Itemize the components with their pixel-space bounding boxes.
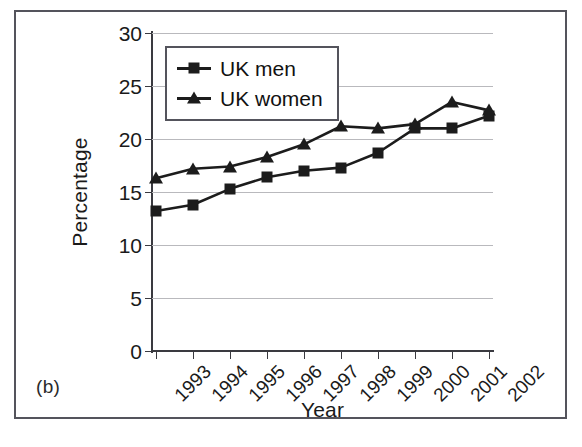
series-line-uk-men <box>156 116 489 211</box>
legend-key-triangle-icon <box>177 90 211 106</box>
data-point-uk-men-1995 <box>225 183 236 194</box>
y-tick-label: 0 <box>130 341 142 362</box>
y-tick-label: 10 <box>119 235 142 256</box>
x-tick-mark <box>489 351 490 359</box>
x-tick-mark <box>378 351 379 359</box>
legend-label-uk-men: UK men <box>220 58 296 79</box>
legend: UK men UK women <box>165 46 339 121</box>
data-point-uk-men-1997 <box>299 165 310 176</box>
y-tick-mark <box>145 192 152 193</box>
y-tick-label: 20 <box>119 129 142 150</box>
x-tick-mark <box>193 351 194 359</box>
x-tick-mark <box>415 351 416 359</box>
x-tick-mark <box>156 351 157 359</box>
x-tick-mark <box>230 351 231 359</box>
data-point-uk-women-1993 <box>149 172 163 184</box>
legend-item-uk-women: UK women <box>177 83 323 113</box>
legend-item-uk-men: UK men <box>177 53 323 83</box>
y-tick-mark <box>145 245 152 246</box>
y-tick-label: 5 <box>130 288 142 309</box>
x-tick-mark <box>267 351 268 359</box>
y-tick-mark <box>145 86 152 87</box>
plot-area: 051015202530 199319941995199619971998199… <box>152 33 493 351</box>
panel-letter: (b) <box>36 376 60 398</box>
y-tick-label: 30 <box>119 23 142 44</box>
data-point-uk-men-2001 <box>447 123 458 134</box>
y-tick-mark <box>145 298 152 299</box>
data-point-uk-men-1999 <box>373 147 384 158</box>
y-axis-title: Percentage <box>66 33 94 351</box>
y-tick-mark <box>145 33 152 34</box>
data-point-uk-women-2000 <box>408 118 422 130</box>
data-point-uk-women-2002 <box>482 104 496 116</box>
y-tick-mark <box>145 351 152 352</box>
data-point-uk-men-1996 <box>262 172 273 183</box>
data-point-uk-women-1998 <box>334 120 348 132</box>
data-point-uk-men-1994 <box>188 199 199 210</box>
y-tick-mark <box>145 139 152 140</box>
x-tick-mark <box>452 351 453 359</box>
data-point-uk-men-1993 <box>151 206 162 217</box>
data-point-uk-women-1996 <box>260 150 274 162</box>
y-tick-label: 15 <box>119 182 142 203</box>
data-point-uk-men-1998 <box>336 162 347 173</box>
legend-label-uk-women: UK women <box>220 88 323 109</box>
legend-key-square-icon <box>177 60 211 76</box>
data-point-uk-women-1995 <box>223 160 237 172</box>
y-tick-label: 25 <box>119 76 142 97</box>
data-point-uk-women-1999 <box>371 122 385 134</box>
data-point-uk-women-2001 <box>445 95 459 107</box>
figure-panel-b: (b) Percentage Year 051015202530 1993199… <box>0 0 582 447</box>
data-point-uk-women-1994 <box>186 162 200 174</box>
x-tick-mark <box>341 351 342 359</box>
x-tick-mark <box>304 351 305 359</box>
data-point-uk-women-1997 <box>297 138 311 150</box>
